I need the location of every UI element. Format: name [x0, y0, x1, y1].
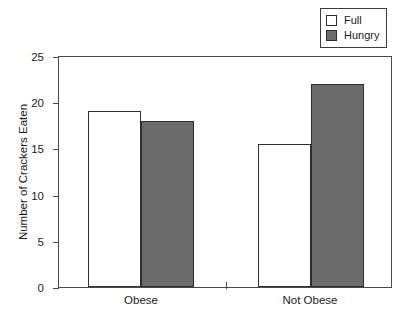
y-tick-label-0: 0	[38, 281, 44, 296]
y-tick-label-5: 5	[38, 235, 44, 250]
legend-swatch-hungry-icon	[326, 30, 337, 41]
x-label-obese: Obese	[88, 292, 194, 308]
bar-obese-hungry	[141, 121, 194, 287]
bar-not-obese-full	[258, 144, 311, 287]
y-tick-label-10: 10	[31, 189, 44, 204]
y-tick-20: 20	[53, 103, 59, 104]
y-tick-0: 0	[53, 288, 59, 289]
y-tick-25: 25	[53, 57, 59, 58]
x-axis-midpoint-tick	[226, 282, 227, 289]
legend-swatch-full-icon	[326, 15, 337, 26]
y-tick-label-15: 15	[31, 142, 44, 157]
bar-not-obese-hungry	[311, 84, 364, 287]
y-axis-title: Number of Crackers Eaten	[14, 57, 32, 288]
y-tick-10: 10	[53, 196, 59, 197]
y-tick-label-25: 25	[31, 50, 44, 65]
x-label-not-obese: Not Obese	[256, 292, 364, 308]
y-tick-5: 5	[53, 242, 59, 243]
bar-chart-figure: Full Hungry Number of Crackers Eaten 25 …	[0, 0, 412, 320]
legend-label-full: Full	[344, 14, 362, 27]
legend-label-hungry: Hungry	[344, 29, 379, 42]
bar-obese-full	[88, 111, 141, 287]
legend-item-full: Full	[326, 13, 379, 28]
y-tick-label-20: 20	[31, 96, 44, 111]
plot-area: 25 20 15 10 5 0	[58, 56, 392, 288]
chart-legend: Full Hungry	[320, 8, 387, 48]
legend-item-hungry: Hungry	[326, 28, 379, 43]
y-tick-15: 15	[53, 149, 59, 150]
